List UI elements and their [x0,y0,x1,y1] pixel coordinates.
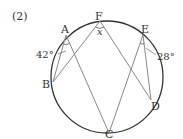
angle-arc-A [64,43,70,45]
point-label-D: D [151,100,160,113]
angle-label-x: x [97,26,103,37]
leader-28 [146,48,156,55]
segment-AB [53,35,66,82]
angle-label-28: 28° [157,51,175,62]
angle-label-42: 42° [36,49,54,60]
problem-number: (2) [12,10,28,23]
point-label-C: C [105,128,113,139]
angle-arc-E [140,43,145,44]
circle [51,21,163,133]
leader-42 [58,51,66,54]
point-label-B: B [42,78,50,91]
segment-AC [66,35,109,133]
geometry-diagram: (2) A F E B C D 42° 28° x [0,0,183,139]
segment-EC [109,35,143,133]
point-label-F: F [95,10,103,23]
point-label-A: A [60,23,70,36]
point-label-E: E [141,23,149,36]
